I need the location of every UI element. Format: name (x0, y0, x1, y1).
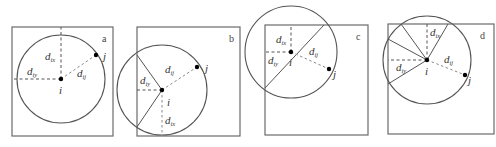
label-dix-c: dix (276, 33, 286, 46)
label-dix-a: dix (45, 50, 55, 63)
diagram-svg: dix diy dij i j a diy dix dij i j b dix … (0, 0, 496, 147)
sector-line-left-upper-d (388, 39, 427, 60)
point-i-b (160, 88, 164, 92)
point-i-a (59, 77, 63, 81)
label-j-a: j (101, 50, 106, 62)
point-j-c (327, 67, 331, 71)
point-j-d (463, 73, 467, 77)
panel-tag-a: a (102, 33, 107, 44)
panel-c: dix diy dij i j c (245, 6, 368, 135)
label-i-c: i (289, 56, 292, 68)
panel-tag-b: b (229, 33, 234, 44)
panel-a: dix diy dij i j a (12, 27, 113, 136)
label-diy-d: diy (396, 61, 406, 74)
label-dij-c: dij (309, 45, 318, 58)
point-j-a (94, 53, 98, 57)
label-diy-a: diy (27, 65, 37, 78)
label-diy-b: diy (140, 74, 150, 87)
label-i-a: i (59, 84, 62, 96)
label-dix-d: dix (430, 26, 440, 39)
sector-line-lower-b (137, 90, 162, 127)
label-dij-d: dij (444, 53, 453, 66)
label-dix-b: dix (165, 114, 175, 127)
panel-tag-d: d (480, 30, 485, 41)
sector-line-top-left-d (401, 24, 427, 60)
frame-d (388, 24, 494, 134)
sector-line-left-lower-d (388, 60, 427, 84)
label-dij-b: dij (165, 63, 174, 76)
label-i-b: i (167, 96, 170, 108)
frame-b (137, 27, 240, 136)
panel-b: diy dix dij i j b (117, 27, 240, 136)
diagram-stage: dix diy dij i j a diy dix dij i j b dix … (0, 0, 496, 147)
panel-tag-c: c (356, 31, 361, 42)
point-j-b (195, 65, 199, 69)
label-dij-a: dij (77, 67, 86, 80)
label-i-d: i (425, 65, 428, 77)
point-i-d (425, 58, 429, 62)
frame-a (12, 27, 113, 136)
panel-d: dix diy dij i j d (383, 16, 494, 134)
label-diy-c: diy (268, 54, 278, 67)
point-i-c (289, 50, 293, 54)
